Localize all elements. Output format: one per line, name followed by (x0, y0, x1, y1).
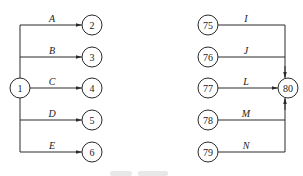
edge-label-J: J (244, 45, 249, 56)
edge-label-I: I (243, 13, 248, 24)
node-4: 4 (82, 78, 102, 98)
edge-label-B: B (49, 45, 55, 56)
edge-label-N: N (242, 140, 251, 151)
edge-label-L: L (242, 76, 249, 87)
edge-label-E: E (48, 140, 55, 151)
node-6: 6 (82, 142, 102, 162)
node-label: 77 (203, 83, 213, 94)
node-80: 80 (278, 78, 298, 98)
node-label: 6 (90, 147, 95, 158)
node-label: 80 (283, 83, 293, 94)
edge-label-M: M (241, 108, 251, 119)
node-label: 4 (90, 83, 95, 94)
node-label: 79 (203, 147, 213, 158)
node-77: 77 (198, 78, 218, 98)
node-label: 76 (203, 52, 213, 63)
node-label: 78 (203, 115, 213, 126)
edge-label-D: D (47, 108, 56, 119)
node-5: 5 (82, 110, 102, 130)
node-1: 1 (10, 78, 30, 98)
caption-fragment (138, 171, 168, 176)
node-label: 3 (90, 52, 95, 63)
edge-label-C: C (49, 76, 56, 87)
network-diagram: ABCDE 234561 IJLMN 757677787980 (0, 0, 303, 176)
node-3: 3 (82, 47, 102, 67)
figure-caption-cropped (110, 171, 190, 176)
node-label: 5 (90, 115, 95, 126)
node-2: 2 (82, 15, 102, 35)
node-75: 75 (198, 15, 218, 35)
node-label: 1 (18, 83, 23, 94)
node-label: 75 (203, 20, 213, 31)
node-label: 2 (90, 20, 95, 31)
left-burst-network: ABCDE 234561 (10, 13, 102, 162)
caption-fragment (110, 171, 132, 176)
node-78: 78 (198, 110, 218, 130)
node-76: 76 (198, 47, 218, 67)
node-79: 79 (198, 142, 218, 162)
right-merge-network: IJLMN 757677787980 (198, 13, 298, 162)
edge-label-A: A (48, 13, 56, 24)
